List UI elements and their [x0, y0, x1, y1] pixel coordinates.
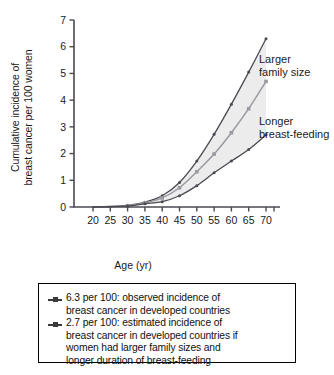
- annotation-longer-breast-feeding: Longer breast-feeding: [259, 115, 329, 141]
- y-axis-label-line-1: Cumulative incidence of: [9, 18, 22, 218]
- legend-text-estimated: 2.7 per 100: estimated incidence of brea…: [66, 317, 238, 367]
- annotation-larger-line-2: family size: [259, 66, 310, 79]
- legend-text-observed: 6.3 per 100: observed incidence of breas…: [66, 292, 230, 317]
- x-tick-label: 55: [208, 214, 220, 226]
- annotation-longer-line-1: Longer: [259, 115, 329, 128]
- x-tick-label: 45: [174, 214, 186, 226]
- y-tick-label: 2: [60, 147, 66, 159]
- legend-marker-observed-icon: [48, 294, 62, 306]
- legend-marker-estimated-icon: [48, 319, 62, 331]
- y-tick-label: 6: [60, 40, 66, 52]
- x-tick-label: 65: [243, 214, 255, 226]
- y-tick-label: 7: [60, 14, 66, 26]
- legend-estimated-line-1: 2.7 per 100: estimated incidence of: [66, 317, 238, 330]
- plot-area: 012345672025303540455055606570 Cumulativ…: [0, 0, 334, 258]
- y-axis-label-line-2: breast cancer per 100 women: [21, 18, 34, 218]
- y-tick-label: 1: [60, 174, 66, 186]
- x-tick-label: 40: [156, 214, 168, 226]
- y-tick-label: 5: [60, 67, 66, 79]
- y-tick-label: 4: [60, 94, 66, 106]
- legend-estimated-line-2: breast cancer in developed countries if: [66, 330, 238, 343]
- legend-observed-line-2: breast cancer in developed countries: [66, 305, 230, 318]
- legend-box: 6.3 per 100: observed incidence of breas…: [38, 283, 296, 363]
- x-tick-label: 25: [104, 214, 116, 226]
- legend-estimated-line-3: women had larger family sizes and: [66, 342, 238, 355]
- legend-entry-observed: 6.3 per 100: observed incidence of breas…: [48, 292, 230, 317]
- legend-observed-line-1: 6.3 per 100: observed incidence of: [66, 292, 230, 305]
- figure-container: 012345672025303540455055606570 Cumulativ…: [0, 0, 334, 375]
- legend-estimated-line-4: longer duration of breast-feeding: [66, 355, 238, 368]
- annotation-larger-line-1: Larger: [259, 53, 310, 66]
- annotation-larger-family-size: Larger family size: [259, 53, 310, 79]
- x-tick-label: 70: [260, 214, 272, 226]
- x-tick-label: 20: [87, 214, 99, 226]
- x-tick-label: 60: [226, 214, 238, 226]
- annotation-longer-line-2: breast-feeding: [259, 128, 329, 141]
- y-tick-label: 0: [60, 201, 66, 213]
- x-tick-label: 50: [191, 214, 203, 226]
- x-tick-label: 30: [122, 214, 134, 226]
- legend-entry-estimated: 2.7 per 100: estimated incidence of brea…: [48, 317, 238, 367]
- x-axis-label: Age (yr): [0, 259, 266, 271]
- y-tick-label: 3: [60, 121, 66, 133]
- y-axis-label: Cumulative incidence of breast cancer pe…: [9, 18, 34, 218]
- x-tick-label: 35: [139, 214, 151, 226]
